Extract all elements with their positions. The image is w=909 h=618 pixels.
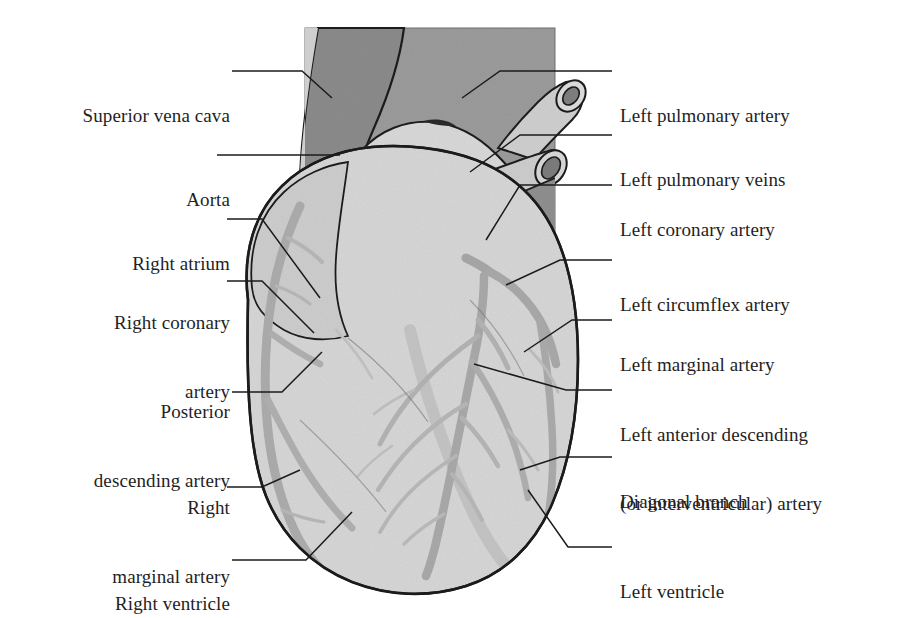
label-line: Left marginal artery xyxy=(620,353,775,376)
label-left-ventricle: Left ventricle xyxy=(620,534,724,618)
label-right-ventricle: Right ventricle xyxy=(30,546,230,618)
label-line: Diagonal branch xyxy=(620,490,748,513)
label-line: Posterior xyxy=(30,400,230,423)
label-line: Right coronary xyxy=(30,311,230,334)
label-line: Right ventricle xyxy=(30,592,230,615)
label-line: Left coronary artery xyxy=(620,218,775,241)
label-line: Superior vena cava xyxy=(30,104,230,127)
label-line: Left anterior descending xyxy=(620,423,822,446)
label-line: Left ventricle xyxy=(620,580,724,603)
label-line: Right xyxy=(30,496,230,519)
